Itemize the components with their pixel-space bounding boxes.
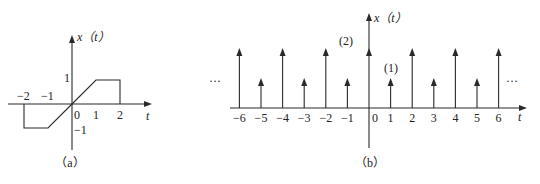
tick-a-2: 2 [117,108,123,122]
caption-a: （a） [55,156,84,170]
tick-b: −1 [341,111,354,125]
tick-b: 2 [409,111,415,125]
impulse-label-1: (1) [384,61,398,75]
tick-b: 4 [452,111,458,125]
tick-b: −4 [276,111,289,125]
x-label-a: t [146,109,150,123]
tick-a-neg1: −1 [41,89,54,103]
tick-b: −2 [319,111,332,125]
x-ticks-b: −6−5−4−3−2−10123456 [233,111,502,125]
ytick-a-1: 1 [64,71,70,85]
x-label-b: t [518,110,522,124]
tick-a-0: 0 [74,108,80,122]
ytick-a-neg1: −1 [74,123,87,137]
impulse-label-2: (2) [339,34,353,48]
y-label-a: x（t） [76,30,110,44]
figure-labels: x（t） t −2 −1 0 1 2 1 −1 （a） x（t） t (2) (… [0,0,540,184]
tick-a-1: 1 [93,108,99,122]
tick-b: −6 [233,111,246,125]
tick-b: −3 [298,111,311,125]
y-label-b: x（t） [373,11,407,25]
tick-b: 5 [474,111,480,125]
tick-b: 3 [431,111,437,125]
caption-b: （b） [355,156,385,170]
tick-b: −5 [255,111,268,125]
tick-a-neg2: −2 [17,89,30,103]
ellipsis-right: ··· [506,74,518,88]
tick-b: 0 [372,111,378,125]
ellipsis-left: ··· [209,74,221,88]
tick-b: 6 [496,111,502,125]
tick-b: 1 [388,111,394,125]
